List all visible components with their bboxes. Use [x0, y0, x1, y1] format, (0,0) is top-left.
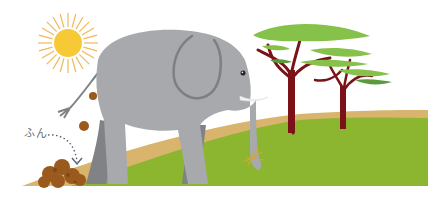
dung-label: ふん: [24, 124, 48, 140]
dung-ball-icon: [89, 92, 97, 100]
sun-icon: [38, 13, 98, 73]
savanna-elephant-illustration: [0, 0, 444, 205]
dung-ball-icon: [79, 121, 89, 131]
dung-pile-icon: [38, 159, 86, 188]
